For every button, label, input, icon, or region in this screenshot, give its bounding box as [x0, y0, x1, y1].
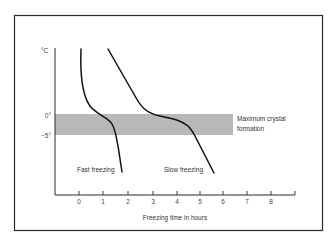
x-tick-label: 7 [245, 198, 249, 205]
freezing-chart: 0 1 2 3 4 5 6 7 8 Freezing time in hours… [0, 0, 336, 241]
x-tick-label: 1 [101, 198, 105, 205]
fast-freezing-label: Fast freezing [77, 166, 115, 174]
x-tick-labels: 0 1 2 3 4 5 6 7 8 [77, 198, 273, 205]
band-label-line1: Maximum crystal [237, 115, 286, 123]
fast-freezing-curve [81, 49, 122, 172]
y-tick-label-minus5: −5° [41, 132, 51, 139]
x-tick-label: 6 [221, 198, 225, 205]
band-label-line2: formation [237, 125, 264, 132]
x-tick-label: 0 [77, 198, 81, 205]
x-ticks [79, 191, 295, 195]
slow-freezing-label: Slow freezing [164, 166, 203, 174]
slow-freezing-curve [108, 49, 214, 173]
x-tick-label: 8 [269, 198, 273, 205]
y-axis-unit-label: °C [41, 47, 49, 54]
x-tick-label: 4 [175, 198, 179, 205]
y-tick-label-0: 0° [45, 112, 52, 119]
x-tick-label: 5 [198, 198, 202, 205]
x-tick-label: 3 [151, 198, 155, 205]
crystal-formation-band [55, 114, 233, 135]
x-axis-label: Freezing time in hours [143, 214, 208, 222]
x-tick-label: 2 [126, 198, 130, 205]
